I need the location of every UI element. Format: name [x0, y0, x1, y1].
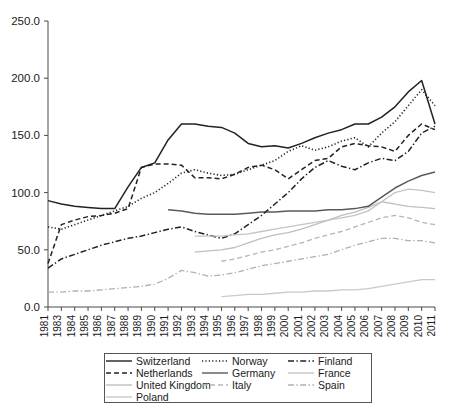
x-tick-label: 1988	[119, 315, 130, 338]
x-tick-label: 1996	[226, 315, 237, 338]
x-tick-label: 1983	[52, 315, 63, 338]
y-axis-ticks: 0.050.0100.0150.0200.0250.0	[11, 15, 48, 313]
data-series	[48, 80, 435, 296]
legend-swatch-dashdot-icon	[288, 381, 314, 389]
legend-entry-united-kingdom[interactable]: United Kingdom	[106, 379, 202, 391]
series-line-finland	[48, 126, 435, 268]
x-tick-label: 1987	[106, 315, 117, 338]
legend-entry-spain[interactable]: Spain	[288, 379, 372, 391]
legend-entry-norway[interactable]: Norway	[202, 355, 288, 367]
legend-entry-switzerland[interactable]: Switzerland	[106, 355, 202, 367]
x-tick-label: 1995	[212, 315, 223, 338]
legend-swatch-dashed-icon	[106, 369, 132, 377]
x-tick-label: 2005	[346, 315, 357, 338]
x-tick-label: 2002	[306, 315, 317, 338]
x-tick-label: 1997	[239, 315, 250, 338]
legend-label: Finland	[318, 356, 352, 367]
x-tick-label: 1994	[199, 315, 210, 338]
x-tick-label: 1998	[253, 315, 264, 338]
x-tick-label: 1984	[66, 315, 77, 338]
legend-label: Italy	[232, 380, 251, 391]
legend-label: United Kingdom	[136, 380, 211, 391]
legend-swatch-dashed-icon	[202, 381, 228, 389]
x-tick-label: 2000	[279, 315, 290, 338]
x-tick-label: 2011	[426, 315, 437, 337]
legend-entry-poland[interactable]: Poland	[106, 391, 202, 403]
x-tick-label: 1992	[172, 315, 183, 338]
y-tick-label: 150.0	[11, 129, 40, 141]
y-tick-label: 250.0	[11, 15, 40, 27]
series-line-poland	[221, 280, 435, 297]
x-tick-label: 1993	[186, 315, 197, 338]
series-line-spain	[48, 238, 435, 292]
legend-label: Netherlands	[136, 368, 193, 379]
x-tick-label: 2007	[373, 315, 384, 338]
legend-swatch-solid-icon	[202, 369, 228, 377]
legend-swatch-solid-icon	[106, 381, 132, 389]
legend-entry-netherlands[interactable]: Netherlands	[106, 367, 202, 379]
y-tick-label: 50.0	[18, 244, 40, 256]
y-tick-label: 100.0	[11, 187, 40, 199]
x-axis-ticks: 1981198319841985198619871988198919901991…	[39, 307, 437, 337]
x-tick-label: 1991	[159, 315, 170, 338]
series-line-netherlands	[48, 124, 435, 264]
x-tick-label: 2006	[359, 315, 370, 338]
legend-swatch-dotted-icon	[202, 357, 228, 365]
x-tick-label: 2001	[293, 315, 304, 338]
x-tick-label: 2003	[319, 315, 330, 338]
chart-legend: SwitzerlandNorwayFinlandNetherlandsGerma…	[104, 353, 372, 403]
y-tick-label: 200.0	[11, 72, 40, 84]
series-line-switzerland	[48, 80, 435, 208]
x-tick-label: 1981	[39, 315, 50, 338]
x-tick-label: 2009	[399, 315, 410, 338]
series-line-italy	[221, 215, 435, 261]
legend-grid: SwitzerlandNorwayFinlandNetherlandsGerma…	[105, 354, 371, 403]
x-tick-label: 1999	[266, 315, 277, 338]
x-tick-label: 1986	[92, 315, 103, 338]
legend-swatch-solid-icon	[106, 357, 132, 365]
series-line-united-kingdom	[195, 202, 435, 252]
legend-label: Norway	[232, 356, 268, 367]
legend-swatch-solid-icon	[106, 393, 132, 401]
legend-label: France	[318, 368, 351, 379]
legend-entry-germany[interactable]: Germany	[202, 367, 288, 379]
line-chart: 0.050.0100.0150.0200.0250.0 198119831984…	[0, 0, 463, 415]
x-tick-label: 1990	[146, 315, 157, 338]
axes	[48, 21, 435, 307]
legend-label: Switzerland	[136, 356, 190, 367]
x-tick-label: 1989	[132, 315, 143, 338]
series-line-france	[195, 189, 435, 236]
legend-swatch-solid-icon	[288, 369, 314, 377]
legend-label: Poland	[136, 392, 169, 403]
x-tick-label: 2010	[413, 315, 424, 338]
x-tick-label: 2008	[386, 315, 397, 338]
x-tick-label: 2004	[333, 315, 344, 338]
legend-label: Spain	[318, 380, 345, 391]
legend-entry-france[interactable]: France	[288, 367, 372, 379]
y-tick-label: 0.0	[24, 301, 40, 313]
x-tick-label: 1985	[79, 315, 90, 338]
legend-label: Germany	[232, 368, 275, 379]
legend-entry-finland[interactable]: Finland	[288, 355, 372, 367]
legend-swatch-dashdot-icon	[288, 357, 314, 365]
legend-entry-italy[interactable]: Italy	[202, 379, 288, 391]
